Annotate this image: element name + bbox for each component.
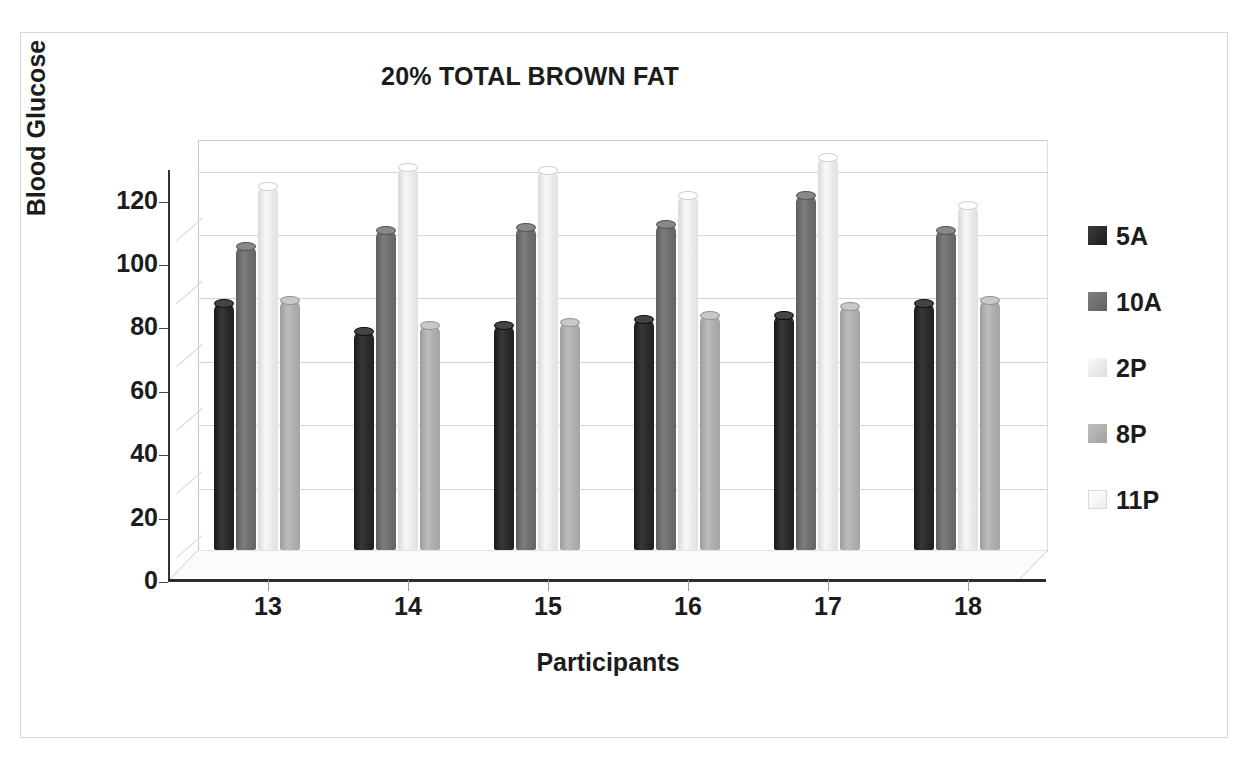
chart-page: 20% TOTAL BROWN FAT Blood Glucose Partic…: [0, 0, 1252, 768]
x-axis-title: Participants: [168, 648, 1048, 677]
legend-swatch: [1088, 226, 1107, 245]
bar[interactable]: [516, 227, 536, 550]
x-axis-tick: [828, 580, 829, 591]
bar[interactable]: [560, 322, 580, 550]
bar[interactable]: [980, 300, 1000, 550]
bar-cap: [398, 163, 418, 172]
bar-cap: [538, 166, 558, 175]
x-axis-tick: [548, 580, 549, 591]
bar[interactable]: [796, 195, 816, 550]
y-axis-tick-label: 20: [88, 503, 158, 532]
chart-legend: 5A10A2P8P11P: [1088, 222, 1218, 552]
bar[interactable]: [538, 170, 558, 550]
bar-cap: [1002, 546, 1022, 555]
bar[interactable]: [258, 186, 278, 550]
bar-cap: [582, 546, 602, 555]
bar-series-container: [168, 140, 1048, 582]
x-axis-tick: [268, 580, 269, 591]
bar-cap: [280, 296, 300, 305]
bar[interactable]: [494, 325, 514, 550]
bar[interactable]: [958, 205, 978, 550]
y-axis-tick: [159, 392, 168, 393]
x-axis-tick: [968, 580, 969, 591]
y-axis-tick: [159, 455, 168, 456]
chart-title: 20% TOTAL BROWN FAT: [0, 62, 1060, 91]
legend-item[interactable]: 5A: [1088, 222, 1218, 288]
bar-cap: [936, 226, 956, 235]
bar-cap: [354, 327, 374, 336]
plot-area: 020406080100120: [168, 140, 1048, 582]
y-axis-tick: [159, 582, 168, 583]
bar-cap: [560, 318, 580, 327]
bar[interactable]: [840, 306, 860, 550]
y-axis-tick-label: 100: [88, 249, 158, 278]
legend-item[interactable]: 8P: [1088, 420, 1218, 486]
x-axis-tick-label: 15: [503, 592, 593, 621]
bar[interactable]: [398, 167, 418, 550]
bar-cap: [634, 315, 654, 324]
bar[interactable]: [700, 315, 720, 550]
legend-swatch: [1088, 424, 1107, 443]
bar-cap: [840, 302, 860, 311]
bar-cap: [420, 321, 440, 330]
legend-item[interactable]: 11P: [1088, 486, 1218, 552]
y-axis-title: Blood Glucose: [22, 0, 51, 258]
bar-cap: [818, 153, 838, 162]
legend-swatch: [1088, 490, 1107, 509]
legend-swatch: [1088, 358, 1107, 377]
legend-label: 5A: [1116, 222, 1148, 251]
y-axis-tick: [159, 519, 168, 520]
y-axis-tick-label: 60: [88, 376, 158, 405]
bar-cap: [258, 182, 278, 191]
bar-group: [214, 138, 322, 550]
bar-cap: [774, 311, 794, 320]
x-axis-tick: [408, 580, 409, 591]
bar-cap: [236, 242, 256, 251]
x-axis-tick-label: 14: [363, 592, 453, 621]
bar-cap: [700, 311, 720, 320]
legend-label: 10A: [1116, 288, 1162, 317]
bar[interactable]: [420, 325, 440, 550]
bar-cap: [442, 546, 462, 555]
bar[interactable]: [914, 303, 934, 550]
x-axis-tick-label: 18: [923, 592, 1013, 621]
bar-cap: [678, 191, 698, 200]
legend-item[interactable]: 2P: [1088, 354, 1218, 420]
bar-cap: [722, 546, 742, 555]
bar-group: [774, 138, 882, 550]
y-axis-tick-labels: 020406080100120: [80, 170, 158, 582]
y-axis-tick-label: 0: [88, 566, 158, 595]
y-axis-tick: [159, 328, 168, 329]
bar[interactable]: [214, 303, 234, 550]
bar-cap: [494, 321, 514, 330]
bar-cap: [302, 546, 322, 555]
bar-cap: [376, 226, 396, 235]
legend-label: 11P: [1116, 486, 1159, 515]
x-axis-tick-label: 13: [223, 592, 313, 621]
bar[interactable]: [774, 315, 794, 550]
y-axis-tick-label: 40: [88, 439, 158, 468]
bar[interactable]: [354, 331, 374, 550]
y-axis-tick-label: 120: [88, 186, 158, 215]
legend-label: 2P: [1116, 354, 1147, 383]
x-axis-tick-label: 17: [783, 592, 873, 621]
y-axis-tick: [159, 202, 168, 203]
y-axis-tick: [159, 265, 168, 266]
bar[interactable]: [936, 230, 956, 550]
category-axis-baseline: [168, 579, 1046, 582]
bar-cap: [656, 220, 676, 229]
x-axis-tick-labels: 131415161718: [168, 592, 1048, 626]
bar-cap: [796, 191, 816, 200]
bar[interactable]: [678, 195, 698, 550]
bar[interactable]: [236, 246, 256, 550]
bar[interactable]: [818, 157, 838, 550]
bar-cap: [516, 223, 536, 232]
bar-cap: [958, 201, 978, 210]
bar[interactable]: [280, 300, 300, 550]
bar[interactable]: [656, 224, 676, 550]
bar[interactable]: [376, 230, 396, 550]
legend-swatch: [1088, 292, 1107, 311]
bar[interactable]: [634, 319, 654, 550]
bar-group: [634, 138, 742, 550]
legend-item[interactable]: 10A: [1088, 288, 1218, 354]
